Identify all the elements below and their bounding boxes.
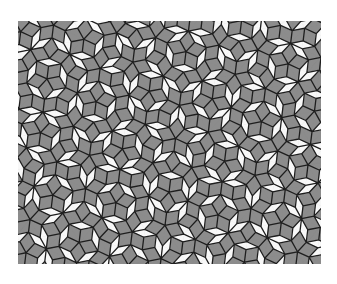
tiling-graphic [18, 21, 321, 264]
penrose-tiling [18, 21, 321, 264]
